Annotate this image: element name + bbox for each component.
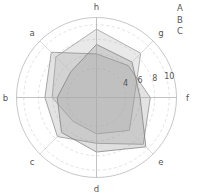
radial-tick-label-4: 4 [123, 79, 128, 88]
radial-tick-label-8: 8 [152, 74, 157, 83]
radial-tick-label-6: 6 [138, 76, 143, 85]
axis-label-d: d [94, 184, 99, 194]
axis-label-e: e [158, 157, 163, 167]
axis-label-c: c [30, 157, 35, 167]
legend-item-C[interactable]: C [177, 26, 183, 36]
axis-label-b: b [3, 93, 8, 103]
radar-chart-canvas: fghabcde 46810 ABC [0, 0, 200, 196]
axis-spokes [17, 18, 177, 178]
radial-tick-label-10: 10 [164, 72, 174, 81]
legend-item-A[interactable]: A [177, 3, 183, 13]
axis-label-f: f [186, 93, 190, 103]
axis-label-g: g [158, 28, 163, 38]
chart-legend: ABC [177, 3, 183, 36]
legend-item-B[interactable]: B [177, 15, 183, 25]
axis-label-a: a [30, 28, 35, 38]
axis-label-h: h [94, 2, 99, 12]
radar-chart: fghabcde 46810 ABC [0, 0, 200, 196]
